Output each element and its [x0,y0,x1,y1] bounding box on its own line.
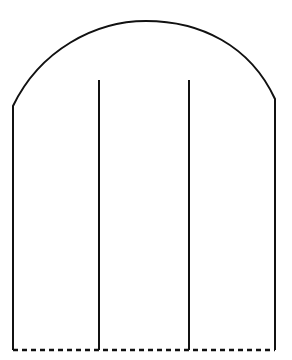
arched-diagram [0,0,292,360]
arched-outline [13,21,275,350]
